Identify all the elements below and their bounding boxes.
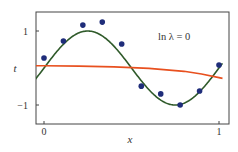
data-point	[197, 88, 203, 94]
x-axis-label: x	[127, 133, 133, 145]
x-tick-label: 0	[42, 126, 47, 137]
lambda-annotation: ln λ = 0	[158, 31, 190, 42]
y-tick-label: 1	[23, 26, 28, 37]
data-point	[139, 83, 145, 89]
y-axis-label: t	[13, 62, 17, 74]
data-point	[177, 102, 183, 108]
x-tick-label: 1	[217, 126, 222, 137]
data-point	[80, 22, 86, 28]
data-point	[61, 38, 67, 44]
data-point	[99, 19, 105, 25]
data-point	[41, 55, 47, 61]
chart: 011−1 x t ln λ = 0	[0, 0, 238, 152]
data-point	[216, 62, 222, 68]
data-point	[158, 91, 164, 97]
y-tick-label: −1	[17, 100, 28, 111]
data-point	[119, 41, 125, 47]
